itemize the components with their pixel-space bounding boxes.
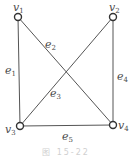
edge-label-e3-sub: 3 (57, 93, 61, 101)
vertex-label-v3-sub: 3 (11, 129, 15, 137)
vertex-label-v3: v3 (5, 124, 16, 137)
edge-e5 (20, 125, 113, 126)
edge-label-e3: e3 (50, 88, 61, 101)
edge-label-e5-sub: 5 (69, 136, 73, 144)
vertex-v4 (110, 122, 117, 129)
edge-label-e1-sub: 1 (12, 70, 16, 78)
vertex-label-v4: v4 (118, 120, 129, 133)
edge-label-e4-sub: 4 (124, 76, 128, 84)
vertex-label-v4-sub: 4 (124, 125, 128, 133)
vertex-label-v1: v1 (13, 2, 24, 15)
edge-label-e4: e4 (117, 71, 128, 84)
edge-label-e1: e1 (5, 65, 16, 78)
edge-e1 (18, 17, 20, 126)
vertex-label-v1-sub: 1 (19, 7, 23, 15)
edge-label-e2: e2 (45, 39, 56, 52)
vertex-v3 (17, 123, 24, 130)
figure-caption: 图 15-22 (0, 146, 132, 157)
vertex-label-v2-sub: 2 (115, 7, 119, 15)
edge-label-e2-sub: 2 (52, 44, 56, 52)
edge-label-e5: e5 (62, 131, 73, 144)
vertex-label-v2: v2 (109, 2, 120, 15)
